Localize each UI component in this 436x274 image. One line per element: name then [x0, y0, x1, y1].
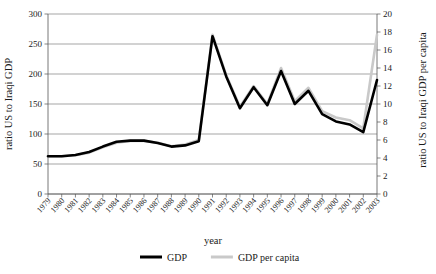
series-line-gdp-per-capita — [48, 35, 377, 157]
x-tick-label: 2002 — [350, 196, 368, 214]
legend-label-gdp: GDP — [167, 252, 187, 263]
y-tick-label: 200 — [29, 69, 43, 79]
chart-container: 050100150200250300 02468101214161820 197… — [0, 0, 436, 274]
y-tick-label: 100 — [29, 129, 43, 139]
y-axis-right-title: ratio US to Iraqi GDP per capita — [417, 32, 428, 168]
y2-tick-label: 8 — [383, 117, 388, 127]
legend: GDPGDP per capita — [140, 252, 300, 263]
x-axis: 1979198019811982198319841985198619871988… — [35, 194, 382, 215]
x-tick-label: 1993 — [227, 196, 245, 214]
x-tick-label: 1980 — [49, 196, 67, 214]
x-tick-label: 1994 — [241, 196, 259, 214]
y2-tick-label: 18 — [383, 27, 393, 37]
axis-titles: ratio US to Iraqi GDP ratio US to Iraqi … — [3, 32, 428, 246]
y-tick-label: 50 — [33, 159, 43, 169]
legend-label-gdp-per-capita: GDP per capita — [238, 252, 300, 263]
x-tick-label: 1989 — [172, 196, 190, 214]
y2-tick-label: 16 — [383, 45, 393, 55]
plot-lines — [48, 35, 377, 157]
x-tick-label: 1984 — [104, 196, 122, 214]
y2-tick-label: 10 — [383, 99, 393, 109]
x-tick-label: 1988 — [158, 196, 176, 214]
x-tick-label: 1985 — [117, 196, 135, 214]
y2-tick-label: 0 — [383, 189, 388, 199]
x-tick-label: 2003 — [364, 196, 382, 214]
x-tick-label: 1987 — [145, 196, 163, 214]
series-line-gdp — [48, 36, 377, 156]
y-axis-left-title: ratio US to Iraqi GDP — [3, 58, 14, 150]
y-tick-label: 0 — [38, 189, 43, 199]
y-axis-left: 050100150200250300 — [29, 9, 49, 199]
y-tick-label: 300 — [29, 9, 43, 19]
y2-tick-label: 12 — [383, 81, 392, 91]
x-tick-label: 1999 — [309, 196, 327, 214]
y2-tick-label: 20 — [383, 9, 393, 19]
y-axis-right: 02468101214161820 — [377, 9, 393, 199]
x-tick-label: 1986 — [131, 196, 149, 214]
x-tick-label: 1981 — [62, 196, 80, 214]
x-tick-label: 1991 — [200, 196, 218, 214]
x-tick-label: 1997 — [282, 196, 300, 214]
y2-tick-label: 4 — [383, 153, 388, 163]
x-tick-label: 1990 — [186, 196, 204, 214]
y-tick-label: 150 — [29, 99, 43, 109]
x-axis-title: year — [204, 235, 223, 246]
x-tick-label: 1983 — [90, 196, 108, 214]
x-tick-label: 1992 — [213, 196, 231, 214]
x-tick-label: 2000 — [323, 196, 341, 214]
y-tick-label: 250 — [29, 39, 43, 49]
x-tick-label: 1998 — [295, 196, 313, 214]
x-tick-label: 1995 — [254, 196, 272, 214]
x-tick-label: 2001 — [337, 196, 355, 214]
y2-tick-label: 2 — [383, 171, 388, 181]
y2-tick-label: 14 — [383, 63, 393, 73]
x-tick-label: 1982 — [76, 196, 94, 214]
line-chart: 050100150200250300 02468101214161820 197… — [0, 0, 436, 274]
y2-tick-label: 6 — [383, 135, 388, 145]
x-tick-label: 1996 — [268, 196, 286, 214]
